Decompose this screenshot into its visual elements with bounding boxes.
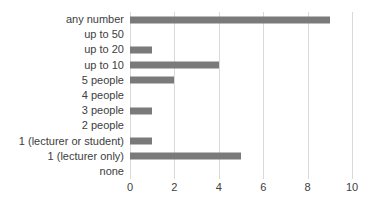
x-tick-label: 4: [216, 182, 222, 193]
bar-row: 1 (lecturer or student): [0, 134, 352, 149]
bar-track: [130, 164, 352, 179]
bar: [130, 46, 152, 53]
chart-rows: any numberup to 50up to 20up to 105 peop…: [0, 12, 352, 179]
x-axis: 0246810: [130, 182, 352, 196]
bar-row: none: [0, 164, 352, 179]
bar-row: up to 10: [0, 58, 352, 73]
bar: [130, 77, 174, 84]
bar: [130, 16, 330, 23]
category-label: up to 20: [0, 44, 130, 55]
category-label: any number: [0, 14, 130, 25]
category-label: up to 50: [0, 29, 130, 40]
bar-row: 1 (lecturer only): [0, 149, 352, 164]
x-tick-label: 2: [171, 182, 177, 193]
bar: [130, 62, 219, 69]
category-label: 1 (lecturer or student): [0, 136, 130, 147]
bar: [130, 138, 152, 145]
bar-chart: any numberup to 50up to 20up to 105 peop…: [0, 0, 368, 208]
gridline: [352, 12, 353, 179]
category-label: up to 10: [0, 60, 130, 71]
category-label: 4 people: [0, 90, 130, 101]
bar-row: up to 50: [0, 27, 352, 42]
x-tick-label: 6: [260, 182, 266, 193]
bar-row: 4 people: [0, 88, 352, 103]
bar-track: [130, 149, 352, 164]
category-label: 1 (lecturer only): [0, 151, 130, 162]
bar: [130, 153, 241, 160]
category-label: 2 people: [0, 120, 130, 131]
category-label: 3 people: [0, 105, 130, 116]
category-label: 5 people: [0, 75, 130, 86]
bar-track: [130, 27, 352, 42]
x-tick-label: 10: [346, 182, 358, 193]
bar: [130, 107, 152, 114]
bar-row: any number: [0, 12, 352, 27]
x-tick-label: 8: [305, 182, 311, 193]
bar-track: [130, 103, 352, 118]
bar-track: [130, 12, 352, 27]
bar-track: [130, 88, 352, 103]
bar-track: [130, 42, 352, 57]
bar-track: [130, 73, 352, 88]
bar-track: [130, 134, 352, 149]
bar-track: [130, 58, 352, 73]
bar-row: 5 people: [0, 73, 352, 88]
bar-row: 3 people: [0, 103, 352, 118]
bar-row: 2 people: [0, 118, 352, 133]
bar-row: up to 20: [0, 42, 352, 57]
x-tick-label: 0: [127, 182, 133, 193]
bar-track: [130, 118, 352, 133]
category-label: none: [0, 166, 130, 177]
